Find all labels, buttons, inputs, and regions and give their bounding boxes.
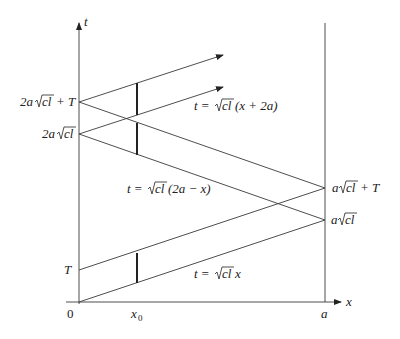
svg-text:cl: cl: [42, 94, 52, 109]
svg-text:2a: 2a: [20, 94, 34, 109]
svg-text:(2a − x): (2a − x): [168, 181, 211, 196]
svg-text:x: x: [130, 306, 137, 321]
svg-text:(x + 2a): (x + 2a): [235, 98, 278, 113]
line-t-sqrtcl-x: [79, 220, 325, 302]
equation-t-sqrtcl-2a-minus-x: t = (2a − x) cl: [127, 181, 211, 196]
svg-text:+ T: + T: [56, 94, 76, 109]
svg-text:a: a: [331, 212, 338, 227]
arrow-line-upper: [79, 55, 223, 102]
radicand: cl: [222, 266, 232, 281]
x0-label: x 0: [130, 306, 143, 323]
radicand: cl: [222, 98, 232, 113]
line-reflect-down-1: [79, 134, 325, 220]
a-label: a: [321, 306, 328, 321]
a-sqrt-cl-plus-T-label: a cl + T: [332, 180, 380, 195]
svg-text:x: x: [234, 266, 241, 281]
svg-text:t =: t =: [194, 266, 210, 281]
svg-text:t =: t =: [194, 98, 210, 113]
a-sqrt-cl-label: a cl: [331, 212, 357, 227]
svg-text:+ T: + T: [360, 180, 380, 195]
two-a-sqrt-cl-label: 2a cl: [42, 126, 76, 141]
svg-text:0: 0: [138, 313, 143, 323]
two-a-sqrt-cl-plus-T-label: 2a cl + T: [20, 94, 76, 109]
x-axis-label: x: [345, 294, 352, 309]
line-reflect-down-2: [79, 102, 325, 188]
t-axis-label: t: [84, 14, 88, 29]
svg-text:cl: cl: [345, 212, 355, 227]
T-label: T: [64, 262, 72, 277]
characteristics-diagram: t x 0 x 0 a T 2a cl 2a cl + T a cl + T a…: [0, 0, 400, 339]
equation-t-sqrtcl-x-plus-2a: t = (x + 2a) cl: [194, 98, 278, 113]
svg-text:t =: t =: [127, 181, 143, 196]
line-from-T-up: [79, 188, 325, 270]
svg-text:cl: cl: [64, 126, 74, 141]
svg-text:a: a: [332, 180, 339, 195]
svg-text:2a: 2a: [42, 126, 56, 141]
radicand: cl: [155, 181, 165, 196]
equation-t-sqrtcl-x: t = x cl: [194, 266, 241, 281]
origin-label: 0: [67, 306, 74, 321]
svg-text:cl: cl: [346, 180, 356, 195]
